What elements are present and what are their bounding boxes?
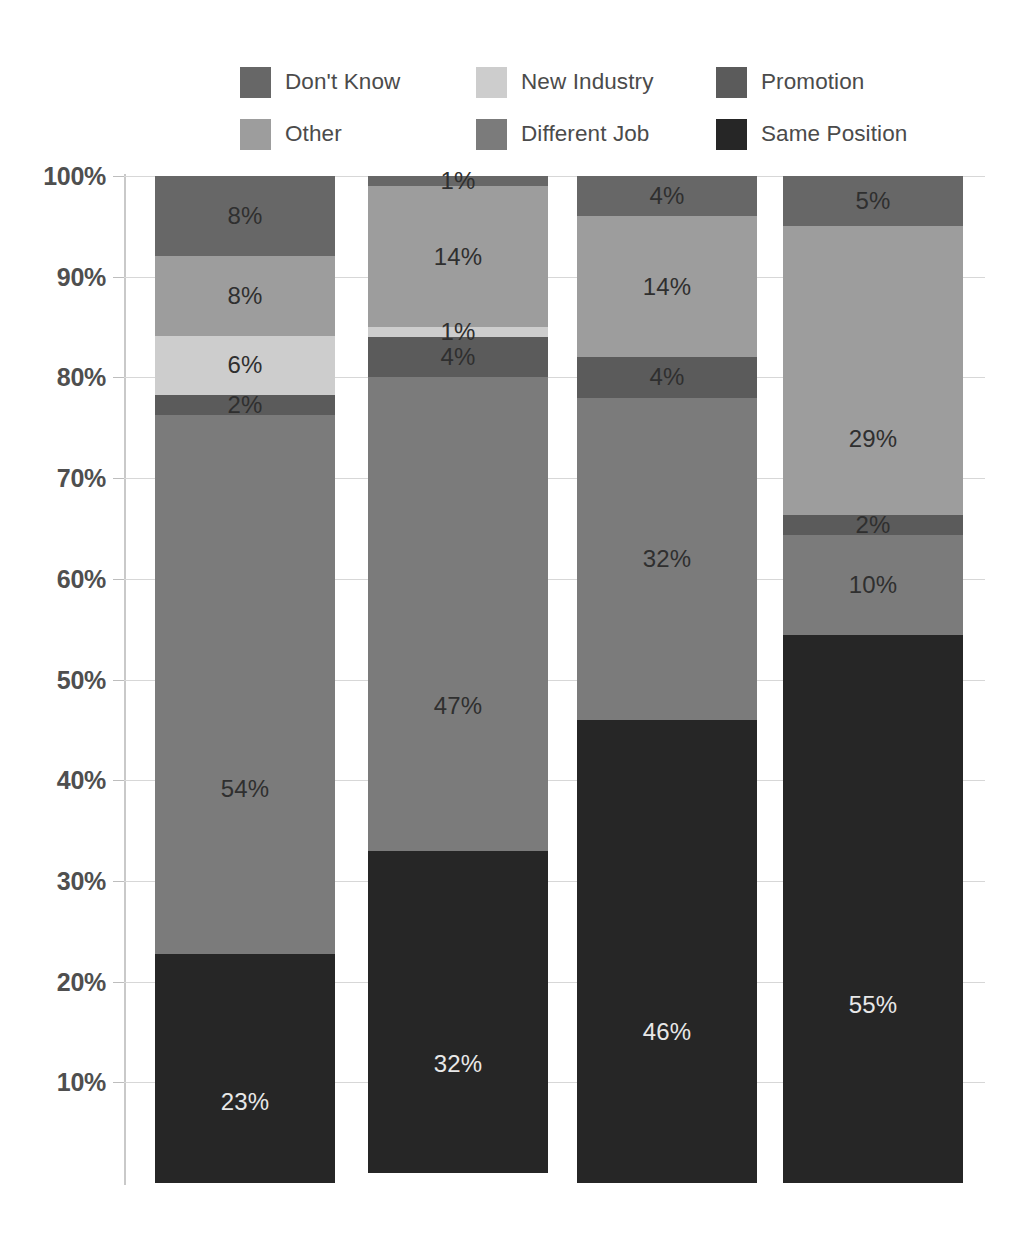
bar-segment-4-other[interactable]: 29% xyxy=(783,226,963,515)
bar-segment-1-promotion[interactable]: 2% xyxy=(155,395,335,415)
bar-segment-1-different-job[interactable]: 54% xyxy=(155,415,335,953)
bar-segment-value-label: 32% xyxy=(643,547,692,571)
bar-segment-3-same-position[interactable]: 46% xyxy=(577,720,757,1183)
bar-segment-value-label: 10% xyxy=(849,573,898,597)
bar-segment-2-new-industry[interactable]: 1% xyxy=(368,327,548,337)
bar-segment-value-label: 4% xyxy=(649,184,684,208)
bar-segment-value-label: 2% xyxy=(855,513,890,537)
bar-segment-value-label: 14% xyxy=(434,245,483,269)
bar-segment-3-promotion[interactable]: 4% xyxy=(577,357,757,397)
bar-segment-value-label: 5% xyxy=(855,189,890,213)
bar-segment-3-different-job[interactable]: 32% xyxy=(577,398,757,720)
bar-segment-value-label: 1% xyxy=(440,169,475,193)
bar-segment-value-label: 8% xyxy=(227,284,262,308)
bar-segment-value-label: 54% xyxy=(221,777,270,801)
bar-column-2[interactable]: 1%14%1%4%47%32% xyxy=(368,176,548,1183)
bar-segment-4-promotion[interactable]: 2% xyxy=(783,515,963,535)
bar-segment-3-other[interactable]: 14% xyxy=(577,216,757,357)
bar-segment-2-same-position[interactable]: 32% xyxy=(368,851,548,1173)
bar-segment-4-don-t-know[interactable]: 5% xyxy=(783,176,963,226)
bar-segment-value-label: 32% xyxy=(434,1052,483,1076)
bar-segment-value-label: 14% xyxy=(643,275,692,299)
bar-segment-1-other[interactable]: 8% xyxy=(155,256,335,336)
bar-segment-3-don-t-know[interactable]: 4% xyxy=(577,176,757,216)
bar-column-1[interactable]: 8%8%6%2%54%23% xyxy=(155,176,335,1183)
bar-segment-value-label: 4% xyxy=(649,365,684,389)
bar-segment-1-don-t-know[interactable]: 8% xyxy=(155,176,335,256)
bar-segment-value-label: 6% xyxy=(227,353,262,377)
stacked-bars: 8%8%6%2%54%23%1%14%1%4%47%32%4%14%4%32%4… xyxy=(0,0,1021,1249)
bar-segment-value-label: 29% xyxy=(849,427,898,451)
bar-segment-value-label: 1% xyxy=(440,320,475,344)
bar-segment-2-different-job[interactable]: 47% xyxy=(368,377,548,850)
bar-segment-2-don-t-know[interactable]: 1% xyxy=(368,176,548,186)
bar-segment-value-label: 46% xyxy=(643,1020,692,1044)
bar-segment-value-label: 2% xyxy=(227,393,262,417)
bar-segment-4-same-position[interactable]: 55% xyxy=(783,635,963,1183)
bar-column-4[interactable]: 5%29%2%10%55% xyxy=(783,176,963,1183)
bar-segment-4-different-job[interactable]: 10% xyxy=(783,535,963,635)
bar-segment-value-label: 23% xyxy=(221,1090,270,1114)
bar-segment-1-same-position[interactable]: 23% xyxy=(155,954,335,1183)
bar-segment-2-promotion[interactable]: 4% xyxy=(368,337,548,377)
chart-plot-area: 100%90%80%70%60%50%40%30%20%10% 8%8%6%2%… xyxy=(0,0,1021,1249)
bar-segment-value-label: 8% xyxy=(227,204,262,228)
bar-segment-1-new-industry[interactable]: 6% xyxy=(155,336,335,396)
bar-segment-value-label: 47% xyxy=(434,694,483,718)
bar-column-3[interactable]: 4%14%4%32%46% xyxy=(577,176,757,1183)
bar-segment-value-label: 4% xyxy=(440,345,475,369)
bar-segment-value-label: 55% xyxy=(849,993,898,1017)
bar-segment-2-other[interactable]: 14% xyxy=(368,186,548,327)
